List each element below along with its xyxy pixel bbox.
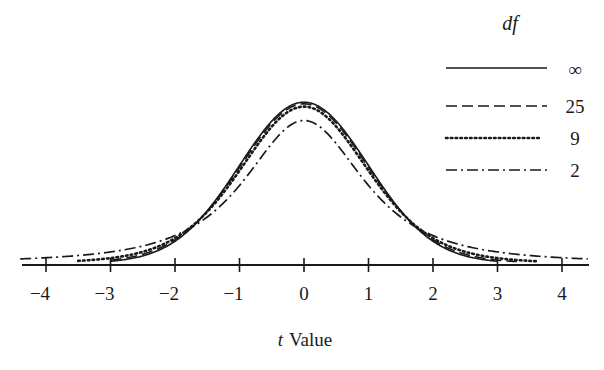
x-tick-label: −2 bbox=[159, 283, 179, 304]
curve-df-9 bbox=[78, 107, 536, 262]
legend-label-25: 25 bbox=[566, 96, 585, 117]
x-axis-label-rest: Value bbox=[289, 329, 332, 350]
x-tick-label: 0 bbox=[299, 283, 309, 304]
x-axis-label-italic: t bbox=[278, 329, 284, 350]
t-distribution-chart: −4−3−2−101234 tValue df ∞2592 bbox=[0, 0, 604, 370]
x-tick-label: 1 bbox=[364, 283, 374, 304]
x-tick-label: −1 bbox=[223, 283, 243, 304]
legend-label-infinity: ∞ bbox=[568, 59, 582, 80]
x-tick-label: 2 bbox=[428, 283, 438, 304]
legend-title: df bbox=[502, 12, 520, 35]
legend: df ∞2592 bbox=[446, 12, 585, 181]
x-tick-label: −4 bbox=[30, 283, 51, 304]
curve-df-2 bbox=[20, 121, 588, 259]
legend-label-2: 2 bbox=[570, 160, 580, 181]
x-tick-label: −3 bbox=[94, 283, 114, 304]
x-axis-label: tValue bbox=[278, 329, 333, 350]
legend-label-9: 9 bbox=[570, 128, 580, 149]
x-tick-label: 4 bbox=[557, 283, 567, 304]
x-tick-label: 3 bbox=[493, 283, 503, 304]
density-curves bbox=[20, 102, 588, 261]
